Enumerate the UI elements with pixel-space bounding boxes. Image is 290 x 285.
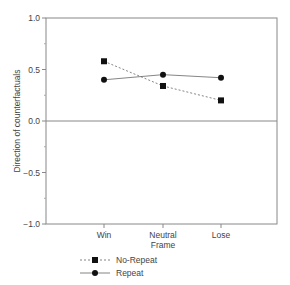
y-axis: 1.00.50.0−0.5−1.0	[23, 13, 46, 229]
legend-repeat-label: Repeat	[116, 268, 144, 278]
x-tick-label: Lose	[212, 230, 231, 240]
series-group	[101, 58, 224, 103]
square-marker-icon	[101, 58, 107, 64]
y-tick-label: 0.5	[28, 65, 40, 75]
legend-square-marker-icon	[92, 257, 98, 263]
legend-circle-marker-icon	[92, 270, 98, 276]
y-tick-label: 1.0	[28, 13, 40, 23]
x-axis-title: Frame	[151, 240, 176, 250]
y-tick-label: −0.5	[23, 168, 40, 178]
y-axis-title: Direction of counterfactuals	[12, 70, 22, 173]
legend-no-repeat-label: No-Repeat	[116, 255, 158, 265]
square-marker-icon	[160, 83, 166, 89]
series-line-no-repeat	[104, 61, 221, 100]
x-tick-label: Neutral	[149, 230, 177, 240]
x-tick-label: Win	[97, 230, 112, 240]
x-axis: WinNeutralLose	[97, 224, 231, 240]
circle-marker-icon	[101, 77, 107, 83]
square-marker-icon	[218, 97, 224, 103]
circle-marker-icon	[160, 72, 166, 78]
y-tick-label: −1.0	[23, 219, 40, 229]
line-chart: 1.00.50.0−0.5−1.0 WinNeutralLose Directi…	[0, 0, 290, 285]
y-tick-label: 0.0	[28, 116, 40, 126]
legend: No-Repeat Repeat	[80, 255, 158, 278]
circle-marker-icon	[218, 75, 224, 81]
